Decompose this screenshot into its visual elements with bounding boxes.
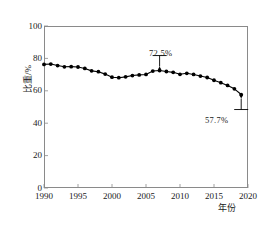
data-point [205,76,209,80]
annotation-label-endpoint: 57.7% [205,116,228,125]
data-point [192,73,196,77]
data-point [219,81,223,85]
data-point [69,65,73,69]
annotation-leader [234,95,248,109]
data-point [42,62,46,66]
data-point [90,69,94,73]
data-point [178,72,182,76]
data-point [226,84,230,88]
data-point-markers [42,62,243,96]
data-point [83,67,87,71]
data-point [165,70,169,74]
data-point [49,62,53,66]
x-axis-tick-label: 2020 [228,192,268,201]
data-point [185,71,189,75]
chart-container: 020406080100 199019952000200520102015202… [0,0,280,229]
data-point [171,70,175,74]
data-line [44,64,241,94]
data-point [76,65,80,69]
data-point [233,87,237,91]
data-point [56,64,60,68]
data-point [97,70,101,74]
data-point [199,74,203,78]
data-point [117,76,121,80]
x-axis-title: 年份 [218,203,236,213]
data-point [103,72,107,76]
data-point [63,65,67,69]
data-point [144,73,148,77]
series-plot [44,26,248,188]
data-point [137,73,141,77]
annotation-label-peak: 72.5% [149,49,172,58]
data-point [110,75,114,79]
annotation-leaders [153,56,249,110]
axis-tick-marks [44,26,248,188]
data-point [124,75,128,79]
y-axis-title: 比重/% [23,49,33,109]
data-point [212,78,216,82]
data-point [131,74,135,78]
data-point [151,69,155,73]
